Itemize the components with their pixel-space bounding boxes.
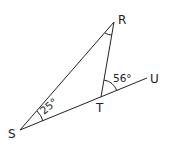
- diagram-canvas: R S T U 25° 56°: [0, 0, 169, 154]
- angle-label-s: 25°: [38, 95, 60, 116]
- point-label-t: T: [95, 101, 104, 115]
- segment-r-t: [101, 22, 114, 97]
- angle-label-t: 56°: [113, 72, 132, 84]
- point-label-u: U: [150, 72, 159, 86]
- triangle-diagram: R S T U 25° 56°: [0, 0, 169, 154]
- segment-s-u: [20, 78, 147, 130]
- point-label-s: S: [8, 127, 16, 141]
- angle-arc-r: [105, 33, 112, 35]
- point-label-r: R: [118, 13, 126, 27]
